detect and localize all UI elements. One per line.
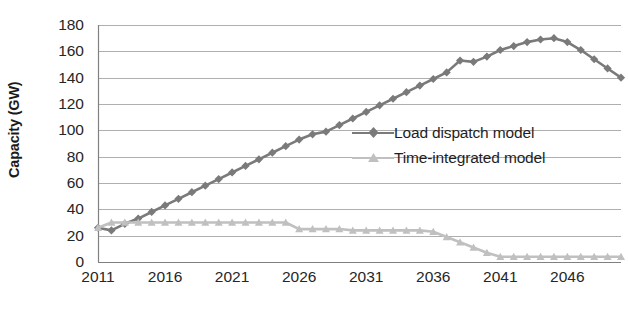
legend-item-time-integrated: Time-integrated model <box>352 145 602 170</box>
chart-legend: Load dispatch model Time-integrated mode… <box>352 120 602 170</box>
legend-label-load-dispatch: Load dispatch model <box>394 124 534 142</box>
legend-label-time-integrated: Time-integrated model <box>394 149 545 167</box>
legend-item-load-dispatch: Load dispatch model <box>352 120 602 145</box>
capacity-line-chart: Capacity (GW) 020406080100120140160180 2… <box>0 0 628 312</box>
legend-swatch-time-integrated <box>352 151 394 165</box>
legend-swatch-load-dispatch <box>352 126 394 140</box>
